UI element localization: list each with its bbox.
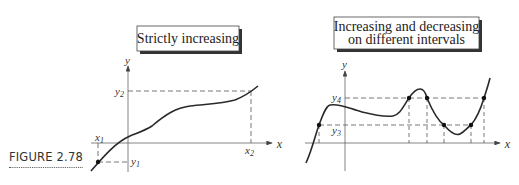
left-label-y1: y1: [130, 155, 140, 169]
right-y-axis-label: y: [341, 58, 347, 70]
right-point-2: [407, 96, 411, 100]
left-x-axis-label: x: [276, 137, 283, 151]
right-graph: Increasing and decreasing on different i…: [305, 17, 511, 171]
left-label-y2: y2: [114, 85, 124, 99]
left-y-axis-label: y: [124, 54, 130, 66]
left-title-box: Strictly increasing: [137, 26, 242, 54]
figure-canvas: Strictly increasing x y x1 x2 y1 y2: [0, 0, 519, 185]
right-label-y4: y4: [331, 91, 341, 105]
right-point-5: [469, 123, 473, 127]
right-point-1: [317, 123, 321, 127]
left-point-x1y1: [96, 160, 100, 164]
left-title: Strictly increasing: [137, 31, 239, 46]
right-point-3: [425, 96, 429, 100]
left-label-x1: x1: [94, 131, 104, 145]
right-point-4: [442, 123, 446, 127]
left-graph: Strictly increasing x y x1 x2 y1 y2: [91, 26, 283, 172]
right-point-6: [482, 96, 486, 100]
left-label-x2: x2: [244, 144, 254, 158]
right-x-axis-label: x: [504, 137, 511, 151]
right-title-box: Increasing and decreasing on different i…: [334, 17, 482, 52]
left-increasing-curve: [91, 86, 258, 171]
right-title-line2: on different intervals: [348, 32, 465, 47]
right-label-y3: y3: [331, 124, 341, 138]
